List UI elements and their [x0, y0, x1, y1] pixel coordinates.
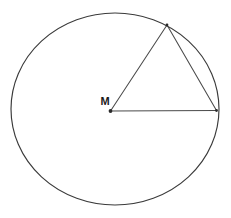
right-point-dot — [215, 109, 218, 112]
apex-point-dot — [166, 24, 169, 27]
center-point-dot — [109, 109, 113, 113]
radius-oblique-line — [111, 25, 168, 111]
geometry-figure: M — [0, 0, 231, 218]
radius-horizontal-line — [111, 111, 217, 112]
geometry-canvas: M — [0, 0, 231, 218]
circle-outline — [11, 13, 219, 205]
center-point-label: M — [100, 95, 109, 107]
